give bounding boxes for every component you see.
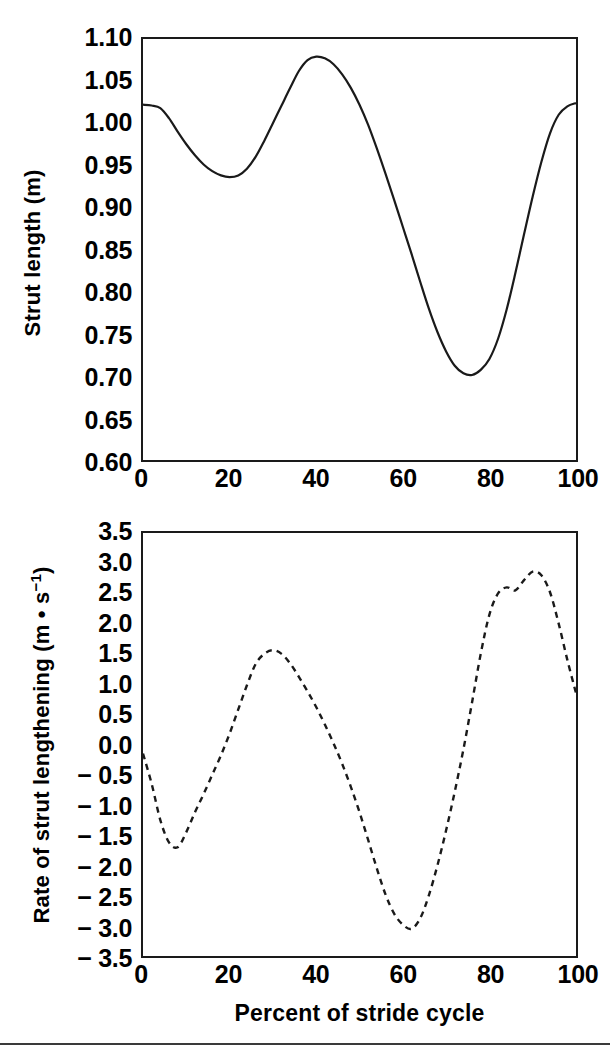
y-axis-title-rate-main: Rate of strut lengthening (m • s <box>29 592 54 924</box>
y-tick-rate-6: 0.5 <box>98 702 132 727</box>
y-tick-strut-length-2: 1.00 <box>85 110 132 135</box>
x-axis-ticks-strut-length: 020406080100 <box>0 466 610 498</box>
x-tick-rate-0: 0 <box>134 962 148 987</box>
strut-length-path <box>143 57 576 376</box>
x-tick-rate-4: 80 <box>477 962 504 987</box>
x-tick-strut-length-3: 60 <box>390 466 417 491</box>
x-tick-strut-length-0: 0 <box>134 466 148 491</box>
y-tick-rate-10: − 1.5 <box>77 824 132 849</box>
y-tick-rate-12: − 2.5 <box>77 885 132 910</box>
y-tick-rate-1: 3.0 <box>98 549 132 574</box>
x-axis-ticks-rate: 020406080100 <box>0 962 610 994</box>
y-tick-strut-length-7: 0.75 <box>85 322 132 347</box>
y-axis-title-rate-of-strut-lengthening: Rate of strut lengthening (m • s−1) <box>23 515 49 975</box>
y-tick-rate-9: − 1.0 <box>77 793 132 818</box>
figure-bottom-rule <box>0 1043 610 1045</box>
y-tick-strut-length-5: 0.85 <box>85 237 132 262</box>
x-tick-rate-1: 20 <box>215 962 242 987</box>
y-tick-strut-length-3: 0.95 <box>85 152 132 177</box>
y-tick-rate-13: − 3.0 <box>77 915 132 940</box>
y-tick-rate-0: 3.5 <box>98 519 132 544</box>
figure-panel-container: 1.101.051.000.950.900.850.800.750.700.65… <box>0 0 610 1053</box>
y-tick-strut-length-6: 0.80 <box>85 280 132 305</box>
y-axis-title-rate-exponent: −1 <box>27 574 44 592</box>
x-tick-strut-length-4: 80 <box>477 466 504 491</box>
x-tick-rate-2: 40 <box>302 962 329 987</box>
y-tick-strut-length-9: 0.65 <box>85 407 132 432</box>
plot-area-rate-of-strut-lengthening <box>141 531 578 958</box>
y-tick-rate-8: − 0.5 <box>77 763 132 788</box>
chart-panel-rate-of-strut-lengthening: 3.53.02.52.01.51.00.50.0− 0.5− 1.0− 1.5−… <box>0 500 610 1010</box>
plot-area-strut-length <box>141 37 578 462</box>
y-tick-rate-4: 1.5 <box>98 641 132 666</box>
x-tick-strut-length-5: 100 <box>558 466 599 491</box>
rate-of-strut-lengthening-dashed-series <box>143 533 576 956</box>
y-tick-rate-7: 0.0 <box>98 732 132 757</box>
y-tick-rate-2: 2.5 <box>98 580 132 605</box>
chart-panel-strut-length: 1.101.051.000.950.900.850.800.750.700.65… <box>0 0 610 500</box>
y-tick-strut-length-0: 1.10 <box>85 25 132 50</box>
rate-of-strut-lengthening-path <box>143 571 576 929</box>
x-tick-strut-length-2: 40 <box>302 466 329 491</box>
y-tick-rate-3: 2.0 <box>98 610 132 635</box>
x-tick-rate-3: 60 <box>390 962 417 987</box>
y-tick-rate-11: − 2.0 <box>77 854 132 879</box>
strut-length-line-series <box>143 39 576 460</box>
y-axis-title-strut-length: Strut length (m) <box>20 103 46 403</box>
x-tick-rate-5: 100 <box>558 962 599 987</box>
y-tick-strut-length-4: 0.90 <box>85 195 132 220</box>
y-tick-rate-5: 1.0 <box>98 671 132 696</box>
x-axis-title: Percent of stride cycle <box>141 1000 578 1027</box>
x-tick-strut-length-1: 20 <box>215 466 242 491</box>
y-axis-title-rate-tail: ) <box>29 567 54 575</box>
y-tick-strut-length-1: 1.05 <box>85 67 132 92</box>
y-tick-strut-length-8: 0.70 <box>85 365 132 390</box>
